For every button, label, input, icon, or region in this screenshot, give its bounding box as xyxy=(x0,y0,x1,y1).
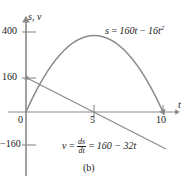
velocity-eq-equals-1: = xyxy=(69,140,75,151)
x-tick-label-5: 5 xyxy=(90,115,95,125)
y-axis-label: s, v xyxy=(28,12,41,22)
y-tick-label-160: 160 xyxy=(2,72,17,82)
position-eq-minus: − xyxy=(140,25,146,36)
position-eq-lhs: s xyxy=(105,25,109,36)
position-eq-term2: 16t xyxy=(148,25,161,36)
velocity-eq-lhs: v xyxy=(62,140,66,151)
y-tick-label-minus-160: −160 xyxy=(0,139,21,149)
position-equation-label: s = 160t − 16t2 xyxy=(105,25,164,36)
x-tick-label-10: 10 xyxy=(156,115,166,125)
derivative-denominator: dt xyxy=(77,147,86,155)
position-eq-equals: = xyxy=(111,25,117,36)
x-axis-label: t xyxy=(178,100,181,110)
position-eq-exponent: 2 xyxy=(161,24,165,32)
figure-caption: (b) xyxy=(83,163,95,173)
y-tick-label-400: 400 xyxy=(2,26,17,36)
velocity-equation-label: v = ds dt = 160 − 32t xyxy=(62,138,136,156)
velocity-eq-equals-2: = xyxy=(89,140,95,151)
velocity-eq-rhs: 160 − 32t xyxy=(97,140,137,151)
figure-container: s, v t 400 160 −160 0 5 10 s = 160t − 16… xyxy=(0,0,189,180)
position-eq-term1: 160t xyxy=(120,25,138,36)
position-curve xyxy=(26,36,163,113)
x-tick-label-0: 0 xyxy=(18,115,23,125)
derivative-fraction: ds dt xyxy=(77,138,86,156)
